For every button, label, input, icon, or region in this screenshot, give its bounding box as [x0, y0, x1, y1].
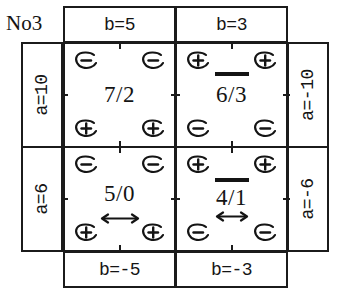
sign-plus-icon [73, 118, 99, 140]
column-header-right-label: b=3 [216, 15, 247, 35]
sign-minus-icon [185, 118, 211, 140]
tick-mark [231, 245, 233, 252]
sign-minus-icon [185, 222, 211, 244]
sign-plus-icon [140, 222, 166, 244]
tick-mark [119, 245, 121, 252]
row-header-left-top: a=10 [21, 42, 63, 148]
row-header-right-top-label: a=-10 [298, 69, 318, 121]
tick-mark [173, 94, 180, 96]
tick-mark [61, 198, 68, 200]
tick-mark [231, 42, 233, 49]
column-header-right: b=3 [175, 6, 288, 43]
row-header-left-bottom: a=6 [21, 146, 63, 252]
cell-value: 7/2 [65, 83, 174, 106]
tick-mark [61, 94, 68, 96]
sign-minus-icon [252, 222, 278, 244]
cell-value: 5/0 [65, 182, 174, 205]
sign-minus-icon [252, 118, 278, 140]
diagram-title: No3 [6, 6, 62, 40]
double-arrow-icon [213, 211, 251, 222]
row-header-left-bottom-label: a=6 [32, 184, 52, 215]
tick-mark [119, 42, 121, 49]
tick-mark [283, 94, 290, 96]
tick-mark [283, 198, 290, 200]
column-footer-right-label: b=-3 [211, 260, 252, 280]
grid-cell-bottom-left: 5/0 [63, 146, 176, 252]
sign-plus-icon [140, 118, 166, 140]
column-header-left-label: b=5 [104, 15, 135, 35]
diagram-root: No3 b=5 b=3 a=10 a=6 a=-10 a=-6 b=-5 b=-… [0, 0, 344, 296]
double-arrow-icon [97, 213, 143, 224]
grid-cell-top-left: 7/2 [63, 42, 176, 148]
row-header-left-top-label: a=10 [32, 74, 52, 115]
sign-plus-icon [73, 222, 99, 244]
tick-mark [231, 146, 233, 153]
sign-minus-icon [140, 154, 166, 176]
sign-plus-icon [252, 154, 278, 176]
column-header-left: b=5 [63, 6, 176, 43]
grid-cell-bottom-right: 4/1 [175, 146, 288, 252]
grid-cell-top-right: 6/3 [175, 42, 288, 148]
column-footer-right: b=-3 [175, 251, 288, 288]
sign-minus-icon [140, 50, 166, 72]
column-footer-left-label: b=-5 [99, 260, 140, 280]
cell-value: 4/1 [177, 186, 286, 209]
tick-mark [119, 146, 121, 153]
row-header-right-bottom: a=-6 [287, 146, 329, 252]
tick-mark [173, 198, 180, 200]
sign-plus-icon [252, 50, 278, 72]
row-header-right-bottom-label: a=-6 [298, 178, 318, 219]
sign-minus-icon [73, 154, 99, 176]
sign-plus-icon [185, 50, 211, 72]
overbar-mark [215, 178, 249, 182]
sign-plus-icon [185, 154, 211, 176]
column-footer-left: b=-5 [63, 251, 176, 288]
sign-minus-icon [73, 50, 99, 72]
row-header-right-top: a=-10 [287, 42, 329, 148]
overbar-mark [215, 72, 249, 76]
cell-value: 6/3 [177, 83, 286, 106]
